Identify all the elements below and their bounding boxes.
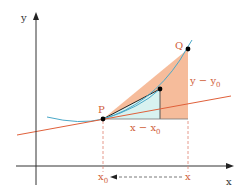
x-axis-label: x xyxy=(226,176,232,187)
point-P xyxy=(101,117,106,122)
y-axis-label: y xyxy=(20,12,27,23)
x0-label: x0 xyxy=(98,171,108,185)
approach-arrow-head xyxy=(110,175,117,180)
point-Q xyxy=(186,47,191,52)
secant-tangent-diagram: y x P Q y − y0 x − x0 x0 x xyxy=(0,0,246,196)
x-label: x xyxy=(185,171,191,182)
point-P-label: P xyxy=(98,104,105,115)
point-intermediate xyxy=(158,87,163,92)
dy-label: y − y0 xyxy=(189,75,221,89)
y-axis-arrow xyxy=(33,12,39,20)
point-Q-label: Q xyxy=(175,40,183,51)
dx-label: x − x0 xyxy=(130,122,160,136)
x-axis-arrow xyxy=(226,163,234,169)
